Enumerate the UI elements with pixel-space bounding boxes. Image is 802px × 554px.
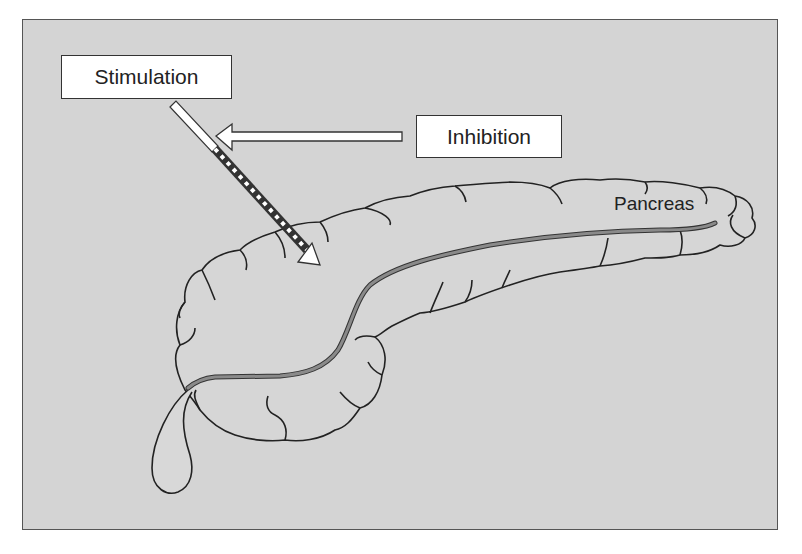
stimulation-label-box: Stimulation — [61, 55, 232, 99]
inhibition-label-box: Inhibition — [416, 115, 562, 158]
inhibition-arrow — [216, 124, 402, 150]
stimulation-arrow — [170, 101, 320, 265]
inhibition-label: Inhibition — [447, 125, 531, 149]
pancreas-label: Pancreas — [614, 193, 694, 215]
stimulation-label: Stimulation — [95, 65, 199, 89]
pancreas-outline — [176, 179, 755, 441]
duct-teardrop — [152, 390, 192, 493]
